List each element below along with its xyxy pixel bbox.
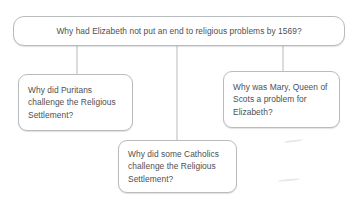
scan-smudge-lower (278, 178, 300, 182)
node-branch-catholics-label: Why did some Catholics challenge the Rel… (119, 148, 236, 185)
node-branch-puritans-label: Why did Puritans challenge the Religious… (19, 84, 132, 121)
node-root-question[interactable]: Why had Elizabeth not put an end to reli… (13, 16, 345, 46)
diagram-canvas: Why had Elizabeth not put an end to reli… (0, 0, 364, 208)
node-branch-mary-label: Why was Mary, Queen of Scots a problem f… (224, 81, 339, 118)
node-branch-puritans[interactable]: Why did Puritans challenge the Religious… (18, 74, 133, 131)
node-root-label: Why had Elizabeth not put an end to reli… (14, 25, 344, 37)
node-branch-catholics[interactable]: Why did some Catholics challenge the Rel… (118, 140, 237, 193)
node-branch-mary[interactable]: Why was Mary, Queen of Scots a problem f… (223, 71, 340, 128)
scan-smudge-upper (284, 139, 303, 143)
